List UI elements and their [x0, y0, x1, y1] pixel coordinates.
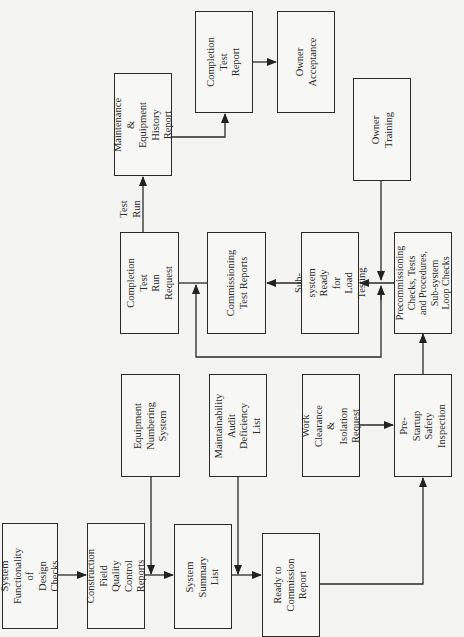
node-label: Construction Field Quality Control Repor… — [85, 549, 148, 603]
node-label: Sub-system Ready for Load Testing — [293, 268, 368, 299]
node-work-clearance: Work Clearance & Isolation Request — [302, 374, 360, 477]
node-ready-to-commission: Ready to Commission Report — [262, 533, 320, 637]
node-owner-training: Owner Training — [353, 78, 411, 181]
node-completion-test-run-request: Completion Test Run Request — [120, 232, 179, 334]
node-label: Owner Training — [370, 112, 395, 148]
node-equipment-numbering: Equipment Numbering System — [121, 374, 180, 477]
node-label: Maintenance & Equipment History Report — [112, 97, 175, 151]
node-owner-acceptance: Owner Acceptance — [277, 11, 335, 113]
node-pre-startup-inspection: Pre-Startup Safety Inspection — [394, 374, 452, 477]
node-subsystem-ready: Sub-system Ready for Load Testing — [301, 232, 359, 334]
node-precommissioning-checks: Precommissioning Checks, Tests and Proce… — [394, 232, 452, 334]
node-label: Ready to Commission Report — [272, 558, 310, 611]
node-label: Pre-Startup Safety Inspection — [398, 404, 448, 448]
node-completion-test-report: Completion Test Report — [195, 11, 253, 113]
node-maintainability-audit: Maintainability Audit Deficiency List — [209, 374, 267, 477]
node-cfqc-reports: Construction Field Quality Control Repor… — [87, 523, 145, 629]
node-maintenance-history-report: Maintenance & Equipment History Report — [114, 73, 172, 176]
node-system-summary: System Summary List — [174, 524, 232, 629]
node-label: Commissioning Test Reports — [224, 250, 249, 317]
node-label: Equipment Numbering System — [132, 402, 170, 450]
node-label: System Functionality of Design Checks — [0, 548, 61, 604]
node-label: Completion Test Run Request — [125, 258, 175, 308]
node-label: Completion Test Report — [205, 37, 243, 87]
node-label: System Summary List — [184, 556, 222, 597]
node-label: Precommissioning Checks, Tests and Proce… — [394, 246, 452, 320]
node-label: Maintainability Audit Deficiency List — [213, 393, 263, 458]
node-label: Owner Acceptance — [294, 38, 319, 87]
node-label: Work Clearance & Isolation Request — [300, 405, 363, 447]
node-design-checks: System Functionality of Design Checks — [2, 523, 58, 629]
edge-label-test-run: Test Run — [118, 189, 146, 229]
node-commissioning-test-reports: Commissioning Test Reports — [207, 232, 266, 334]
